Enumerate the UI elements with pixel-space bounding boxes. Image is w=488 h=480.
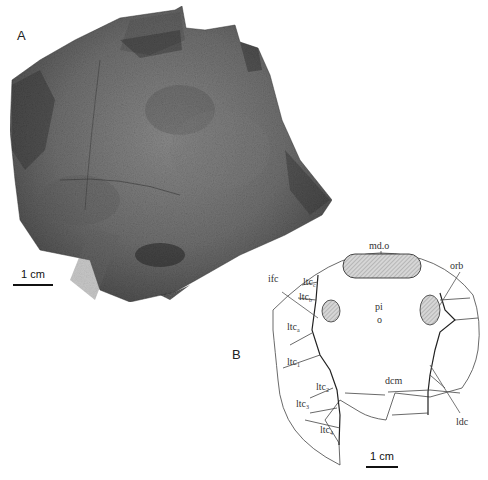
right-orbit	[420, 295, 440, 325]
label-mdo: md.o	[369, 240, 389, 251]
label-ltc-1: ltc1	[287, 356, 300, 368]
label-pi: pi	[375, 301, 383, 312]
label-ltc-3: ltc3	[296, 398, 309, 410]
panel-b-scale-label: 1 cm	[370, 450, 394, 462]
label-ltc-a: ltca	[287, 321, 300, 333]
label-ltc-c: ltcc	[303, 276, 316, 288]
label-orb: orb	[450, 260, 463, 271]
label-ldc: ldc	[456, 416, 469, 427]
label-ltc-2: ltc2	[316, 381, 329, 393]
label-ltc-b: ltcb	[299, 291, 312, 303]
left-orbit	[322, 300, 340, 322]
pineal-mark: o	[377, 314, 382, 325]
panel-b-scale-bar	[366, 466, 398, 468]
head-shield-drawing: md.o orb ifc ltcc ltcb ltca ltc1 ltc2 lt…	[0, 0, 488, 480]
label-dcm: dcm	[385, 375, 402, 386]
label-ifc: ifc	[268, 273, 279, 284]
median-dorsal-opening	[343, 254, 421, 278]
